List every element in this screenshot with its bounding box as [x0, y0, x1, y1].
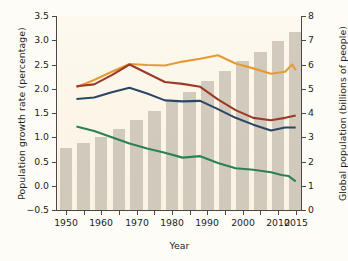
y-tick-left [52, 113, 56, 114]
x-tick [137, 211, 138, 215]
y-tick-left [52, 210, 56, 211]
x-axis-spine [56, 210, 302, 211]
y-tick-right [302, 210, 306, 211]
x-tick [207, 211, 208, 215]
line-green-series [76, 127, 295, 182]
y-tick-label-left: 1.5 [19, 107, 49, 118]
y-tick-label-left: 0.5 [19, 156, 49, 167]
y-tick-label-right: 8 [308, 10, 330, 21]
y-tick-left [52, 89, 56, 90]
y-tick-right [302, 162, 306, 163]
x-tick [190, 211, 191, 215]
y-tick-label-left: 3.0 [19, 34, 49, 45]
line-orange-series [76, 55, 295, 87]
y-tick-label-left: 2.5 [19, 59, 49, 70]
x-tick [225, 211, 226, 215]
y-tick-label-left: 3.5 [19, 10, 49, 21]
y-tick-left [52, 65, 56, 66]
y-tick-label-right: 0 [308, 204, 330, 215]
x-tick-label: 1950 [46, 217, 86, 228]
y-tick-label-left: 0.0 [19, 180, 49, 191]
x-tick [84, 211, 85, 215]
x-tick [296, 211, 297, 215]
y-tick-right [302, 16, 306, 17]
y-tick-left [52, 137, 56, 138]
x-tick-label: 2015 [276, 217, 316, 228]
x-tick [260, 211, 261, 215]
x-tick [243, 211, 244, 215]
y-tick-label-right: 3 [308, 131, 330, 142]
y-tick-label-right: 6 [308, 59, 330, 70]
y-tick-left [52, 186, 56, 187]
x-tick [66, 211, 67, 215]
line-series-group [57, 16, 301, 210]
y-tick-left [52, 162, 56, 163]
y-tick-label-right: 7 [308, 34, 330, 45]
x-tick [278, 211, 279, 215]
y-tick-right [302, 137, 306, 138]
line-navy-blue-series [76, 88, 295, 131]
x-tick-label: 1990 [187, 217, 227, 228]
y-tick-left [52, 40, 56, 41]
y-tick-right [302, 113, 306, 114]
y-tick-right [302, 65, 306, 66]
x-tick [154, 211, 155, 215]
x-tick-label: 1980 [152, 217, 192, 228]
y-tick-label-right: 5 [308, 83, 330, 94]
y-axis-left-spine [56, 16, 57, 211]
x-tick-label: 2000 [223, 217, 263, 228]
x-tick [119, 211, 120, 215]
x-tick-label: 1970 [117, 217, 157, 228]
x-tick [172, 211, 173, 215]
plot-area [57, 16, 301, 210]
y-tick-label-right: 4 [308, 107, 330, 118]
y-tick-label-right: 2 [308, 156, 330, 167]
y-axis-right-title: Global population (billions of people) [337, 19, 348, 209]
x-axis-title: Year [57, 240, 302, 251]
y-tick-label-left: 1.0 [19, 131, 49, 142]
y-tick-label-left: 2.0 [19, 83, 49, 94]
y-tick-label-left: −0.5 [19, 204, 49, 215]
x-tick-label: 1960 [81, 217, 121, 228]
y-tick-label-right: 1 [308, 180, 330, 191]
x-tick [101, 211, 102, 215]
y-tick-left [52, 16, 56, 17]
y-tick-right [302, 89, 306, 90]
y-tick-right [302, 40, 306, 41]
y-tick-right [302, 186, 306, 187]
